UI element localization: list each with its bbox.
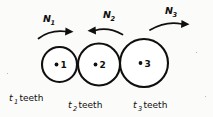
gear-circle-1 [42, 47, 77, 82]
gear-index-label-3: 3 [145, 59, 151, 69]
teeth-subscript-3: 3 [138, 105, 142, 113]
speed-arrowhead-2 [88, 27, 97, 35]
teeth-word-1: teeth [20, 93, 44, 103]
speed-arrowhead-1 [65, 28, 74, 36]
speed-subscript-1: 1 [51, 19, 56, 27]
speed-subscript-3: 3 [173, 11, 178, 19]
teeth-subscript-1: 1 [14, 98, 18, 106]
gear-train-figure: 1 N 1 t 1 teeth 2 N 2 t 2 teeth 3 N [0, 0, 213, 117]
scan-speck [196, 52, 197, 53]
speed-subscript-2: 2 [111, 15, 116, 23]
gear-train-canvas: 1 N 1 t 1 teeth 2 N 2 t 2 teeth 3 N [0, 0, 213, 117]
gear-index-label-1: 1 [61, 60, 67, 70]
center-dot-1 [55, 63, 59, 67]
speed-arc-3 [150, 23, 182, 30]
center-dot-2 [94, 63, 98, 67]
center-dot-3 [139, 61, 143, 65]
scan-speck [205, 96, 206, 97]
gear-index-label-2: 2 [100, 60, 106, 70]
speed-arc-1 [39, 31, 67, 38]
teeth-word-3: teeth [144, 100, 168, 110]
speed-arc-2 [95, 29, 123, 34]
scan-speck [7, 73, 8, 74]
teeth-word-2: teeth [79, 100, 103, 110]
speed-arrowhead-3 [181, 20, 190, 28]
teeth-subscript-2: 2 [73, 105, 77, 113]
